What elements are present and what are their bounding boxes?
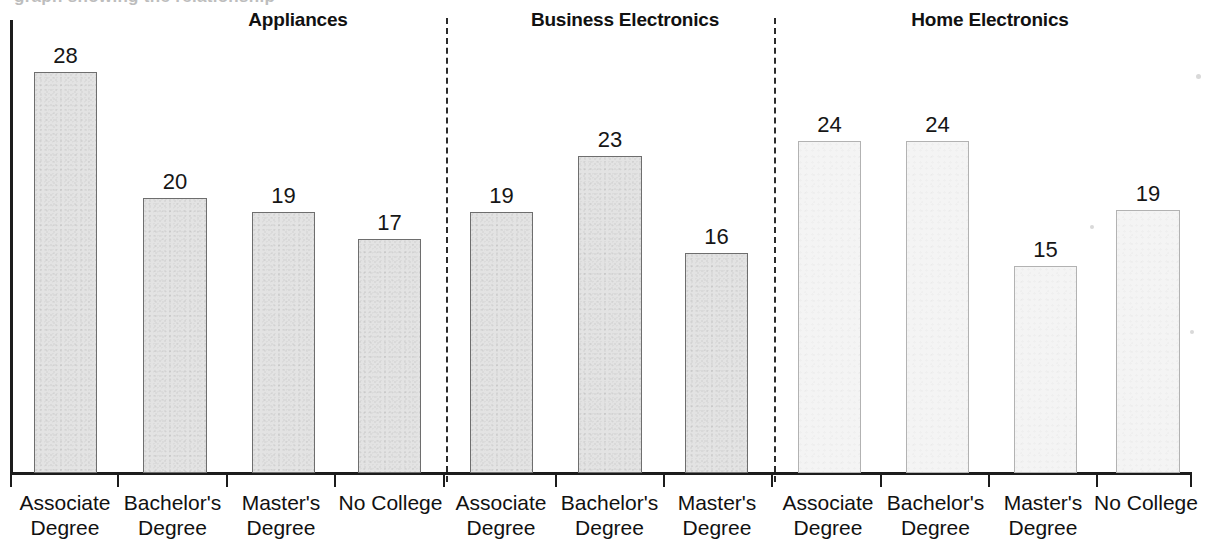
bar-business-associate [470, 212, 533, 473]
x-label-line1: Associate [782, 491, 873, 514]
x-label-home-nocollege: No College [1090, 490, 1202, 515]
bar-value-appliances-associate: 28 [34, 43, 97, 69]
x-label-line2: Degree [776, 515, 880, 540]
x-label-line1: Associate [19, 491, 110, 514]
x-tick [663, 475, 665, 487]
x-label-line1: Bachelor's [561, 491, 658, 514]
x-label-line1: Associate [455, 491, 546, 514]
bar-home-masters [1014, 266, 1077, 473]
x-label-business-associate: Associate Degree [449, 490, 553, 540]
x-label-line1: Master's [242, 491, 321, 514]
bar-business-masters [685, 253, 748, 473]
bar-value-home-masters: 15 [1014, 237, 1077, 263]
bar-value-home-nocollege: 19 [1116, 181, 1180, 207]
x-label-home-associate: Associate Degree [776, 490, 880, 540]
x-label-line1: Master's [678, 491, 757, 514]
scan-speck [1090, 225, 1094, 229]
panel-divider-2 [774, 18, 776, 482]
x-label-line2: Degree [556, 515, 663, 540]
panel-title-business-electronics: Business Electronics [480, 9, 770, 31]
x-label-line2: Degree [228, 515, 334, 540]
x-tick [226, 475, 228, 487]
bar-appliances-masters [252, 212, 315, 473]
x-label-appliances-masters: Master's Degree [228, 490, 334, 540]
x-tick [334, 475, 336, 487]
x-label-line2: Degree [119, 515, 226, 540]
x-label-business-bachelors: Bachelor's Degree [556, 490, 663, 540]
x-tick [555, 475, 557, 487]
x-label-home-masters: Master's Degree [990, 490, 1096, 540]
x-tick [443, 475, 445, 487]
bar-home-nocollege [1116, 210, 1180, 473]
x-label-line2: Degree [449, 515, 553, 540]
bar-appliances-nocollege [358, 239, 421, 473]
panel-title-appliances: Appliances [148, 9, 448, 31]
bar-appliances-bachelors [143, 198, 207, 473]
bar-value-business-associate: 19 [470, 183, 533, 209]
clipped-title-text: graph showing the relationship [14, 0, 275, 7]
bar-chart-figure: graph showing the relationship Appliance… [0, 0, 1206, 542]
x-label-appliances-nocollege: No College [336, 490, 445, 515]
x-tick [117, 475, 119, 487]
y-axis-line [10, 20, 13, 475]
x-tick [771, 475, 773, 487]
x-label-line1: Master's [1004, 491, 1083, 514]
x-label-line1: Bachelor's [124, 491, 221, 514]
x-label-line2: Degree [882, 515, 989, 540]
bar-value-business-masters: 16 [685, 224, 748, 250]
x-tick [880, 475, 882, 487]
x-label-line1: No College [339, 491, 443, 514]
bar-value-home-bachelors: 24 [906, 112, 969, 138]
x-label-line2: Degree [13, 515, 117, 540]
x-label-line1: No College [1094, 491, 1198, 514]
x-label-line2: Degree [664, 515, 770, 540]
bar-value-appliances-nocollege: 17 [358, 210, 421, 236]
panel-title-home-electronics: Home Electronics [845, 9, 1135, 31]
x-tick [10, 475, 12, 487]
x-label-appliances-bachelors: Bachelor's Degree [119, 490, 226, 540]
bar-appliances-associate [34, 72, 97, 473]
x-tick [1096, 475, 1098, 487]
x-tick [1190, 475, 1192, 487]
x-label-line2: Degree [990, 515, 1096, 540]
bar-value-appliances-bachelors: 20 [143, 169, 207, 195]
bar-value-appliances-masters: 19 [252, 183, 315, 209]
scan-speck [1196, 74, 1201, 79]
bar-home-associate [798, 141, 861, 473]
x-tick [988, 475, 990, 487]
x-label-line1: Bachelor's [887, 491, 984, 514]
bar-value-business-bachelors: 23 [578, 127, 642, 153]
bar-value-home-associate: 24 [798, 112, 861, 138]
bar-home-bachelors [906, 141, 969, 473]
scan-speck [1190, 330, 1194, 334]
panel-divider-1 [446, 18, 448, 482]
x-label-appliances-associate: Associate Degree [13, 490, 117, 540]
x-label-home-bachelors: Bachelor's Degree [882, 490, 989, 540]
x-label-business-masters: Master's Degree [664, 490, 770, 540]
bar-business-bachelors [578, 156, 642, 473]
